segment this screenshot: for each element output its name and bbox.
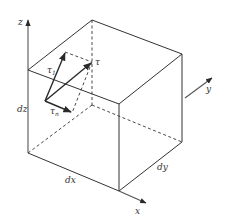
dy-label: dy — [157, 162, 169, 172]
stress-vectors — [45, 52, 92, 113]
hidden-left-bottom-edge — [28, 105, 92, 153]
tau-n-label: τn — [50, 106, 59, 117]
hidden-back-bottom-edge — [92, 105, 182, 142]
tau-n-sub: n — [55, 110, 59, 117]
stress-element-diagram: z x y dz dx dy τ τ1 τn — [0, 0, 225, 218]
tau1-to-tau-dashed — [65, 52, 92, 62]
tau-1-sub: 1 — [52, 69, 56, 76]
dx-label: dx — [65, 175, 76, 185]
tau-1-label: τ1 — [47, 65, 56, 76]
cube-bottom-front-edge — [28, 153, 119, 191]
x-axis-label: x — [135, 206, 140, 216]
x-axis — [119, 191, 146, 203]
dz-label: dz — [17, 104, 28, 114]
y-axis-label: y — [205, 84, 212, 94]
z-axis-label: z — [17, 17, 23, 27]
cube-top-face — [28, 20, 182, 104]
tau-label: τ — [95, 57, 101, 67]
cube-bottom-right-edge — [119, 142, 182, 191]
